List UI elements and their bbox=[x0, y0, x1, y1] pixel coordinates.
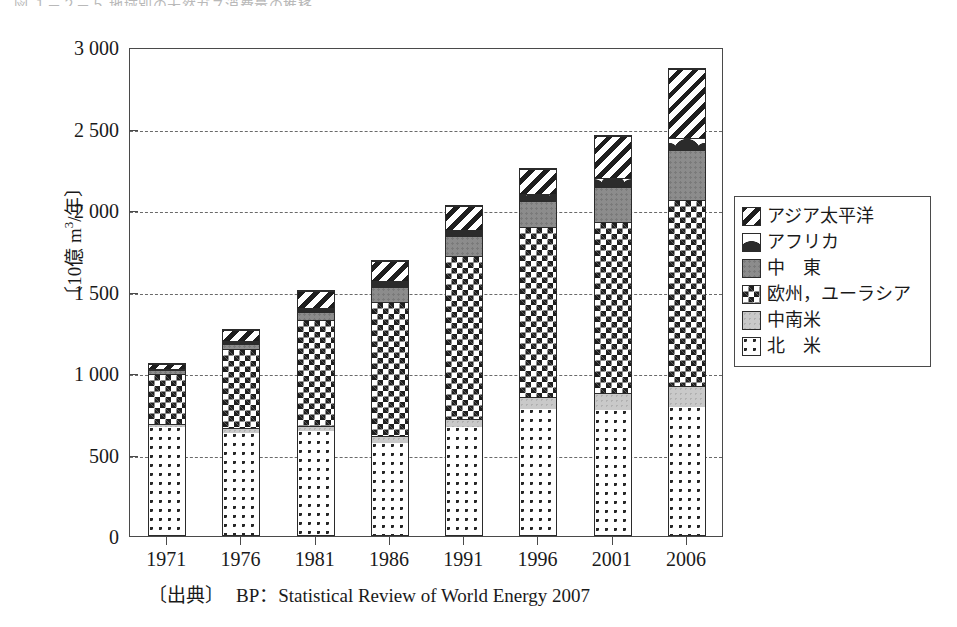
legend-label-africa: アフリカ bbox=[767, 233, 839, 251]
bar-segment-middle-east[interactable] bbox=[372, 287, 408, 302]
y-axis-tick-mark bbox=[129, 211, 138, 212]
gridline bbox=[130, 131, 722, 132]
legend-label-latin-america: 中南米 bbox=[767, 311, 821, 329]
gridline bbox=[130, 457, 722, 458]
x-axis-tick-mark bbox=[240, 537, 241, 545]
bar-segment-africa[interactable] bbox=[149, 369, 185, 370]
y-axis-tick-mark bbox=[129, 130, 138, 131]
y-axis-tick-label: 3 000 bbox=[39, 38, 119, 58]
bar-segment-middle-east[interactable] bbox=[595, 187, 631, 222]
legend-swatch-north-america bbox=[742, 337, 761, 356]
bar-segment-north-america[interactable] bbox=[669, 407, 705, 535]
bar-segment-north-america[interactable] bbox=[223, 433, 259, 535]
legend-label-north-america: 北 米 bbox=[767, 337, 821, 355]
x-axis-tick-mark bbox=[315, 537, 316, 545]
legend-label-europe-eurasia: 欧州，ユーラシア bbox=[767, 285, 911, 303]
bar-segment-asia-pacific[interactable] bbox=[223, 330, 259, 341]
bar-segment-asia-pacific[interactable] bbox=[520, 169, 556, 194]
legend-item-middle-east[interactable]: 中 東 bbox=[742, 255, 924, 281]
bar-segment-latin-america[interactable] bbox=[446, 419, 482, 427]
bar-segment-north-america[interactable] bbox=[298, 431, 334, 535]
bar-segment-europe-eurasia[interactable] bbox=[223, 349, 259, 428]
y-axis-title: 〔10億 m3/年〕 bbox=[59, 162, 86, 322]
legend-item-africa[interactable]: アフリカ bbox=[742, 229, 924, 255]
bar-segment-middle-east[interactable] bbox=[520, 201, 556, 227]
chart-page: 図 １－２－５ 地域別の天然ガス消費量の推移 05001 0001 5002 0… bbox=[0, 0, 957, 627]
legend-item-asia-pacific[interactable]: アジア太平洋 bbox=[742, 203, 924, 229]
gridline bbox=[130, 375, 722, 376]
y-axis-tick-label: 1 000 bbox=[39, 364, 119, 384]
bar-1991[interactable] bbox=[445, 205, 483, 536]
bar-segment-middle-east[interactable] bbox=[298, 312, 334, 320]
legend-item-latin-america[interactable]: 中南米 bbox=[742, 307, 924, 333]
x-axis-tick-label-1986: 1986 bbox=[352, 548, 426, 571]
bar-segment-middle-east[interactable] bbox=[149, 370, 185, 374]
bar-segment-north-america[interactable] bbox=[149, 427, 185, 535]
bar-segment-middle-east[interactable] bbox=[223, 344, 259, 350]
bar-segment-north-america[interactable] bbox=[372, 443, 408, 535]
bar-segment-latin-america[interactable] bbox=[149, 424, 185, 427]
bar-segment-latin-america[interactable] bbox=[298, 426, 334, 431]
bar-segment-latin-america[interactable] bbox=[669, 386, 705, 407]
bar-segment-africa[interactable] bbox=[446, 230, 482, 236]
bar-2001[interactable] bbox=[594, 135, 632, 536]
y-axis-tick-mark bbox=[129, 456, 138, 457]
bar-segment-europe-eurasia[interactable] bbox=[595, 222, 631, 393]
legend-item-europe-eurasia[interactable]: 欧州，ユーラシア bbox=[742, 281, 924, 307]
bar-segment-north-america[interactable] bbox=[520, 409, 556, 535]
y-axis-title-exponent: 3 bbox=[61, 222, 76, 229]
bar-segment-africa[interactable] bbox=[669, 138, 705, 150]
bar-segment-europe-eurasia[interactable] bbox=[372, 302, 408, 436]
source-note: 〔出典〕BP：Statistical Review of World Energ… bbox=[148, 580, 590, 607]
bar-segment-europe-eurasia[interactable] bbox=[298, 320, 334, 426]
legend-swatch-latin-america bbox=[742, 311, 761, 330]
bar-segment-asia-pacific[interactable] bbox=[372, 261, 408, 281]
bar-segment-africa[interactable] bbox=[298, 308, 334, 312]
bar-segment-africa[interactable] bbox=[372, 281, 408, 287]
bar-segment-asia-pacific[interactable] bbox=[595, 136, 631, 178]
bar-segment-latin-america[interactable] bbox=[595, 393, 631, 410]
bar-segment-latin-america[interactable] bbox=[372, 436, 408, 442]
bar-segment-africa[interactable] bbox=[520, 194, 556, 201]
x-axis-tick-mark bbox=[612, 537, 613, 545]
bar-segment-middle-east[interactable] bbox=[669, 150, 705, 200]
y-axis-tick-mark bbox=[129, 293, 138, 294]
legend-label-middle-east: 中 東 bbox=[767, 259, 821, 277]
bar-segment-europe-eurasia[interactable] bbox=[149, 374, 185, 424]
bar-segment-north-america[interactable] bbox=[595, 410, 631, 535]
y-axis-tick-label: 2 500 bbox=[39, 120, 119, 140]
bar-segment-europe-eurasia[interactable] bbox=[669, 200, 705, 386]
y-axis-title-prefix: 〔10億 m bbox=[64, 228, 85, 305]
bar-segment-europe-eurasia[interactable] bbox=[520, 227, 556, 397]
bar-segment-africa[interactable] bbox=[223, 341, 259, 343]
bar-1981[interactable] bbox=[297, 290, 335, 536]
bar-segment-latin-america[interactable] bbox=[223, 428, 259, 432]
bar-1986[interactable] bbox=[371, 260, 409, 536]
bar-1996[interactable] bbox=[519, 168, 557, 536]
legend-label-asia-pacific: アジア太平洋 bbox=[767, 207, 874, 225]
legend-swatch-middle-east bbox=[742, 259, 761, 278]
bar-segment-africa[interactable] bbox=[595, 178, 631, 187]
x-axis-tick-label-2006: 2006 bbox=[649, 548, 723, 571]
gridline bbox=[130, 212, 722, 213]
legend-item-north-america[interactable]: 北 米 bbox=[742, 333, 924, 359]
bar-segment-asia-pacific[interactable] bbox=[149, 364, 185, 369]
bar-1976[interactable] bbox=[222, 329, 260, 536]
x-axis-tick-label-1991: 1991 bbox=[426, 548, 500, 571]
bar-2006[interactable] bbox=[668, 68, 706, 536]
bar-1971[interactable] bbox=[148, 363, 186, 536]
x-axis-tick-mark bbox=[389, 537, 390, 545]
gridline bbox=[130, 294, 722, 295]
x-axis-tick-label-1996: 1996 bbox=[500, 548, 574, 571]
bar-segment-europe-eurasia[interactable] bbox=[446, 256, 482, 420]
plot-area bbox=[129, 48, 723, 537]
bar-segment-north-america[interactable] bbox=[446, 427, 482, 535]
bar-segment-latin-america[interactable] bbox=[520, 397, 556, 409]
y-axis-tick-label: 500 bbox=[39, 446, 119, 466]
bar-segment-asia-pacific[interactable] bbox=[446, 206, 482, 229]
bar-segment-middle-east[interactable] bbox=[446, 236, 482, 255]
source-tag: 〔出典〕 bbox=[148, 585, 224, 606]
bar-segment-asia-pacific[interactable] bbox=[298, 291, 334, 308]
bar-segment-asia-pacific[interactable] bbox=[669, 69, 705, 138]
x-axis-tick-mark bbox=[537, 537, 538, 545]
